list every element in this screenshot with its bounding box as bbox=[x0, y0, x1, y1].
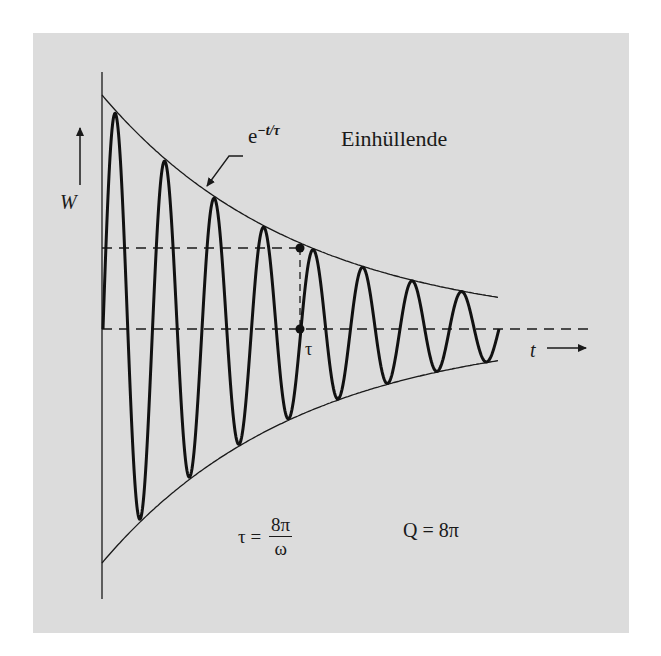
tau-equation-lhs: τ = bbox=[238, 527, 261, 546]
envelope-exponent: −t/τ bbox=[257, 123, 279, 138]
damped-oscillation-plot bbox=[0, 0, 661, 656]
q-equation: Q = 8π bbox=[403, 520, 459, 540]
tau-axis-dot bbox=[296, 325, 305, 334]
tau-equation-denominator: ω bbox=[274, 537, 287, 558]
x-axis-label: t bbox=[530, 340, 536, 360]
oscillation-curve bbox=[103, 113, 499, 519]
tau-marker-label: τ bbox=[305, 340, 312, 358]
tau-envelope-dot bbox=[296, 244, 305, 253]
envelope-formula-label: e−t/τ bbox=[248, 126, 280, 147]
y-axis-label: W bbox=[60, 192, 77, 212]
tau-equation-fraction: 8π ω bbox=[269, 515, 292, 558]
tau-equation-numerator: 8π bbox=[269, 515, 292, 537]
envelope-pointer-arrow-icon bbox=[207, 156, 243, 186]
tau-equation: τ = 8π ω bbox=[238, 515, 292, 558]
envelope-base: e bbox=[248, 124, 257, 148]
envelope-word-label: Einhüllende bbox=[341, 128, 447, 150]
